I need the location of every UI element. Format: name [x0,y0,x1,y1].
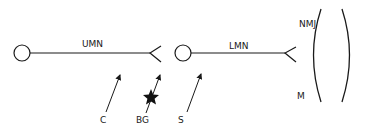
lesion-star-icon [143,89,159,105]
umn-label: UMN [82,39,103,49]
upper-motor-neuron: UMN [14,39,161,62]
lmn-label: LMN [229,41,249,51]
lower-motor-neuron: LMN [175,41,296,62]
lmn-terminal-fork [285,47,296,62]
arrow-c [106,75,120,112]
c-label: C [100,115,106,125]
arrow-s [187,74,201,112]
muscle-label: M [297,91,305,101]
bg-label: BG [136,115,149,125]
pointer-bg: BG [136,75,160,125]
arrow-bg [146,75,160,113]
umn-cell-body [14,45,30,61]
pointer-s: S [178,74,201,125]
pointer-c: C [100,75,120,125]
s-label: S [178,115,184,125]
nmj-label: NMJ [299,19,316,29]
muscle: NMJ M [297,9,350,102]
umn-terminal-fork [150,46,161,62]
muscle-right-bracket [342,9,350,102]
lmn-cell-body [175,45,191,61]
motor-pathway-diagram: UMN LMN NMJ M C BG S [0,0,368,129]
